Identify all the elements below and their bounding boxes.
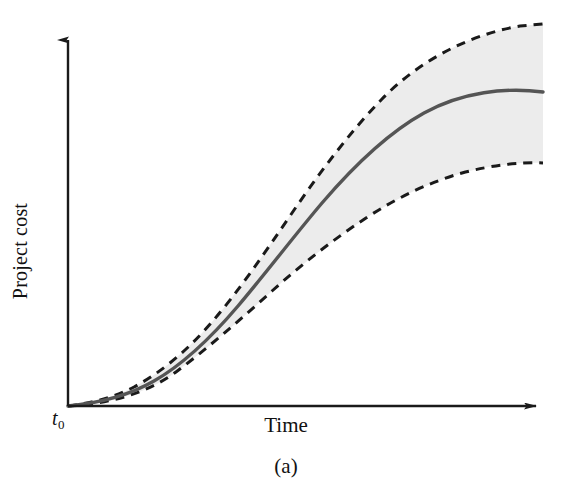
figure-caption: (a) [0, 456, 572, 477]
x-axis-label: Time [0, 415, 572, 436]
y-axis-label-text: Project cost [10, 202, 30, 298]
figure-container: Project cost Time t0 (a) [0, 0, 572, 501]
origin-time-label: t0 [52, 408, 64, 431]
origin-time-subscript: 0 [58, 417, 65, 432]
origin-time-variable: t [52, 407, 58, 429]
uncertainty-band [68, 24, 543, 406]
